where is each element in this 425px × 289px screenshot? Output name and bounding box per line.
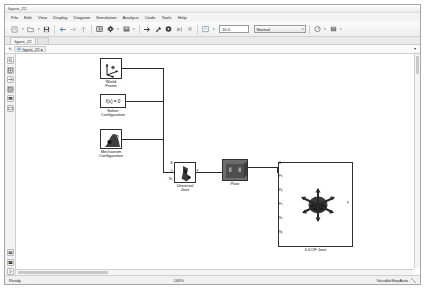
back-button[interactable]	[58, 25, 67, 34]
toolbar-separator-1	[54, 25, 55, 34]
six-dof-joint-port-b: B	[279, 162, 281, 165]
universal-joint-block[interactable]: B Q Rz F Universal Joint	[174, 162, 196, 183]
resize-grip-icon[interactable]	[411, 278, 416, 283]
six-dof-joint-block[interactable]: B Px Py Pz Rx Ry F 6-DOF Joint	[278, 162, 353, 247]
menu-item-display[interactable]: Display	[53, 15, 67, 20]
six-dof-joint-port-px: Px	[279, 175, 282, 178]
plate-label: Plate	[230, 182, 239, 186]
open-model-button[interactable]	[26, 25, 35, 34]
menu-item-file[interactable]: File	[11, 15, 18, 20]
save-button[interactable]	[42, 25, 51, 34]
wire-world-to-bus	[122, 68, 164, 69]
status-bar: Ready 140% VariableStepAuto	[5, 275, 420, 284]
model-canvas[interactable]: World Frame f(x) = 0 Solver Configuratio…	[16, 54, 420, 275]
tab-strip-filler	[37, 37, 49, 44]
world-frame-label-line2: Frame	[105, 84, 117, 88]
wire-plate-to-sixdof	[248, 167, 278, 168]
build-button[interactable]	[154, 25, 163, 34]
plate-block[interactable]: Plate	[222, 159, 248, 181]
fast-restart-button[interactable]	[201, 25, 210, 34]
horizontal-scrollbar-thumb[interactable]	[18, 271, 108, 274]
universal-joint-label-line2: Joint	[181, 188, 189, 192]
chevron-down-icon: ▾	[302, 27, 304, 31]
breadcrumb: ↰ figure_22 ▸ ▾	[5, 45, 420, 54]
annotation-tool[interactable]	[7, 105, 14, 112]
model-configuration-caret-icon[interactable]: ▾	[116, 25, 120, 34]
new-model-button[interactable]	[10, 25, 19, 34]
menu-item-help[interactable]: Help	[178, 15, 187, 20]
universal-joint-icon	[176, 164, 196, 183]
expand-tool[interactable]	[7, 268, 14, 275]
toolbar-separator-4	[197, 25, 198, 34]
breadcrumb-back-icon[interactable]: ↰	[8, 47, 12, 52]
menu-item-analysis[interactable]: Analysis	[123, 15, 139, 20]
update-diagram-button[interactable]	[143, 25, 152, 34]
simulation-stop-time-input[interactable]: 10.0	[219, 25, 249, 33]
six-dof-joint-port-ry: Ry	[279, 231, 283, 234]
zoom-level-text: 140%	[21, 278, 377, 283]
solver-equation-glyph: f(x) = 0	[106, 99, 120, 104]
forward-button[interactable]	[69, 25, 78, 34]
menu-item-diagram[interactable]: Diagram	[74, 15, 91, 20]
six-dof-joint-port-rx: Rx	[279, 217, 283, 220]
wire-universal-to-plate	[196, 172, 222, 173]
model-advisor-caret-icon[interactable]: ▾	[339, 25, 343, 34]
six-dof-joint-port-f: F	[347, 202, 349, 205]
toolbar-separator-3	[139, 25, 140, 34]
signal-table-tool[interactable]	[7, 249, 14, 256]
performance-advisor-button[interactable]	[313, 25, 322, 34]
menu-item-code[interactable]: Code	[145, 15, 156, 20]
wire-bus-vertical	[163, 68, 164, 173]
menu-item-view[interactable]: View	[38, 15, 47, 20]
model-advisor-button[interactable]	[329, 25, 338, 34]
breadcrumb-overflow-caret-icon[interactable]: ▾	[414, 47, 417, 51]
six-dof-joint-port-py: Py	[279, 189, 282, 192]
model-icon	[17, 47, 21, 52]
canvas-surface[interactable]: World Frame f(x) = 0 Solver Configuratio…	[16, 54, 420, 275]
image-tool[interactable]	[7, 95, 14, 102]
simulation-mode-dropdown[interactable]: Normal ▾	[254, 25, 306, 33]
canvas-horizontal-scrollbar[interactable]	[16, 269, 414, 275]
wire-bus-to-universal	[163, 172, 174, 173]
model-tab-strip: figure_22	[5, 37, 420, 45]
canvas-vertical-scrollbar[interactable]	[414, 54, 420, 268]
model-explorer-caret-icon[interactable]: ▾	[132, 25, 136, 34]
model-configuration-button[interactable]	[106, 25, 115, 34]
menu-bar: File Edit View Display Diagram Simulatio…	[5, 13, 420, 22]
wire-mechanism-to-bus	[122, 139, 164, 140]
simulink-model-editor-window: figure_22 File Edit View Display Diagram…	[4, 4, 421, 285]
grid-tool[interactable]	[7, 86, 14, 93]
toolbar-separator-5	[309, 25, 310, 34]
world-frame-block[interactable]: World Frame	[100, 58, 122, 79]
menu-item-tools[interactable]: Tools	[161, 15, 171, 20]
wire-solver-to-bus	[126, 101, 164, 102]
fit-to-view-tool[interactable]	[7, 67, 14, 74]
solver-name-text: VariableStepAuto	[376, 278, 408, 283]
canvas-tool-palette	[5, 54, 16, 275]
menu-item-simulation[interactable]: Simulation	[96, 15, 117, 20]
solver-configuration-block[interactable]: f(x) = 0 Solver Configuration	[100, 94, 126, 108]
new-model-caret-icon[interactable]: ▾	[21, 25, 25, 34]
fast-restart-caret-icon[interactable]: ▾	[212, 25, 216, 34]
tab-figure-22[interactable]: figure_22	[10, 37, 36, 44]
up-to-parent-button[interactable]	[79, 25, 88, 34]
solver-configuration-label-line2: Configuration	[101, 113, 125, 117]
breadcrumb-pin-icon[interactable]: ▸	[41, 47, 43, 52]
vertical-scrollbar-thumb[interactable]	[416, 56, 419, 74]
six-dof-joint-port-pz: Pz	[279, 203, 282, 206]
mechanism-configuration-block[interactable]: Mechanism Configuration	[100, 129, 122, 149]
breadcrumb-item-model[interactable]: figure_22 ▸	[14, 46, 46, 52]
performance-advisor-caret-icon[interactable]: ▾	[323, 25, 327, 34]
model-explorer-button[interactable]	[122, 25, 131, 34]
pan-tool[interactable]	[7, 76, 14, 83]
run-button[interactable]	[164, 25, 173, 34]
library-browser-button[interactable]	[95, 25, 104, 34]
universal-joint-port-f: F	[197, 170, 199, 173]
zoom-in-tool[interactable]	[7, 57, 14, 64]
step-forward-button[interactable]	[175, 25, 184, 34]
stop-button[interactable]	[185, 25, 194, 34]
open-model-caret-icon[interactable]: ▾	[37, 25, 41, 34]
scope-tool[interactable]	[7, 259, 14, 266]
simulation-mode-value: Normal	[257, 27, 271, 32]
menu-item-edit[interactable]: Edit	[24, 15, 32, 20]
